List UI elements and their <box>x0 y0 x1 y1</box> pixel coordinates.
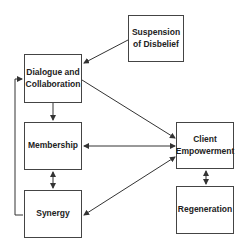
node-client-empowerment: Client Empowerment <box>176 122 234 169</box>
edge-synergy-client <box>84 157 175 215</box>
edge-dialogue-client <box>82 80 175 138</box>
edge-synergy-dialogue-loop <box>15 79 23 215</box>
node-membership: Membership <box>24 122 82 170</box>
node-regeneration: Regeneration <box>176 186 234 234</box>
node-synergy: Synergy <box>24 190 82 238</box>
edge-suspension-dialogue <box>84 40 128 63</box>
node-dialogue-and-collaboration: Dialogue and Collaboration <box>24 54 82 103</box>
node-suspension-of-disbelief: Suspension of Disbelief <box>128 15 184 62</box>
